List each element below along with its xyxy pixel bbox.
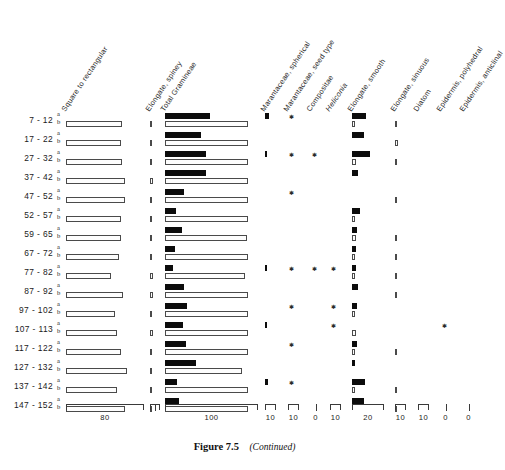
data-bar — [66, 349, 121, 355]
data-bar — [150, 330, 153, 336]
data-bar — [66, 121, 122, 127]
data-bar — [395, 197, 397, 203]
data-bar — [165, 208, 176, 214]
axis-bracket — [165, 404, 258, 410]
data-bar — [165, 265, 173, 271]
subsample-marker-a: a — [57, 395, 60, 402]
axis-bracket — [265, 404, 276, 410]
trace-marker: ✱ — [312, 266, 317, 272]
data-bar — [395, 121, 397, 127]
subsample-marker-a: a — [57, 129, 60, 136]
subsample-marker-b: b — [57, 403, 60, 410]
data-bar — [352, 216, 355, 222]
axis-tick — [316, 404, 317, 411]
data-bar — [165, 189, 184, 195]
depth-label: 127 - 132 — [4, 362, 53, 372]
axis-bracket — [66, 404, 144, 410]
subsample-marker-a: a — [57, 319, 60, 326]
axis-scale-label: 100 — [192, 413, 232, 422]
data-bar — [352, 132, 364, 138]
subsample-marker-a: a — [57, 110, 60, 117]
depth-label: 59 - 65 — [4, 229, 53, 239]
subsample-marker-b: b — [57, 213, 60, 220]
data-bar — [265, 151, 267, 157]
subsample-marker-a: a — [57, 300, 60, 307]
subsample-marker-b: b — [57, 327, 60, 334]
data-bar — [150, 387, 152, 393]
column-header-diatom: Diatom — [412, 87, 433, 113]
data-bar — [352, 170, 358, 176]
trace-marker: ✱ — [331, 304, 336, 310]
data-bar — [165, 170, 206, 176]
data-bar — [352, 379, 365, 385]
data-bar — [150, 292, 153, 298]
depth-label: 137 - 142 — [4, 381, 53, 391]
trace-marker: ✱ — [331, 323, 336, 329]
depth-label: 97 - 102 — [4, 305, 53, 315]
subsample-marker-a: a — [57, 186, 60, 193]
axis-bracket — [395, 404, 406, 410]
data-bar — [165, 235, 247, 241]
axis-bracket — [352, 404, 384, 410]
depth-label: 107 - 113 — [4, 324, 53, 334]
subsample-marker-b: b — [57, 270, 60, 277]
subsample-marker-a: a — [57, 205, 60, 212]
data-bar — [165, 121, 248, 127]
axis-tick — [469, 404, 470, 411]
subsample-marker-b: b — [57, 384, 60, 391]
axis-bracket — [150, 404, 160, 410]
subsample-marker-b: b — [57, 232, 60, 239]
axis-bracket — [418, 404, 429, 410]
axis-tick — [446, 404, 447, 411]
depth-label: 47 - 52 — [4, 191, 53, 201]
data-bar — [165, 140, 248, 146]
data-bar — [165, 330, 248, 336]
data-bar — [352, 235, 356, 241]
data-bar — [165, 113, 210, 119]
depth-label: 147 - 152 — [4, 400, 53, 410]
data-bar — [395, 292, 397, 298]
column-header-square-to-rectangular: Square to rectangular — [60, 45, 110, 113]
depth-label: 27 - 32 — [4, 153, 53, 163]
data-bar — [66, 140, 121, 146]
subsample-marker-b: b — [57, 156, 60, 163]
data-bar — [66, 216, 121, 222]
data-bar — [165, 387, 248, 393]
subsample-marker-b: b — [57, 137, 60, 144]
data-bar — [66, 235, 121, 241]
data-bar — [165, 311, 248, 317]
trace-marker: ✱ — [289, 304, 294, 310]
subsample-marker-b: b — [57, 308, 60, 315]
data-bar — [165, 379, 177, 385]
data-bar — [66, 292, 123, 298]
data-bar — [165, 292, 248, 298]
axis-scale-label: 80 — [85, 413, 125, 422]
data-bar — [352, 227, 357, 233]
data-bar — [265, 322, 267, 328]
data-bar — [150, 121, 152, 127]
data-bar — [352, 151, 370, 157]
trace-marker: ✱ — [442, 323, 447, 329]
depth-label: 87 - 92 — [4, 286, 53, 296]
data-bar — [165, 254, 248, 260]
subsample-marker-a: a — [57, 357, 60, 364]
figure-continued-note: (Continued) — [249, 442, 295, 452]
data-bar — [165, 246, 175, 252]
data-bar — [150, 159, 152, 165]
subsample-marker-a: a — [57, 167, 60, 174]
depth-label: 52 - 57 — [4, 210, 53, 220]
data-bar — [165, 151, 206, 157]
column-header-elongate-sinuous: Elongate, sinuous — [389, 56, 432, 113]
subsample-marker-a: a — [57, 243, 60, 250]
subsample-marker-b: b — [57, 118, 60, 125]
data-bar — [165, 159, 248, 165]
data-bar — [66, 273, 111, 279]
subsample-marker-a: a — [57, 224, 60, 231]
data-bar — [165, 349, 248, 355]
data-bar — [66, 159, 122, 165]
trace-marker: ✱ — [289, 114, 294, 120]
axis-bracket — [330, 404, 341, 410]
data-bar — [150, 273, 153, 279]
data-bar — [66, 178, 125, 184]
data-bar — [265, 379, 268, 385]
